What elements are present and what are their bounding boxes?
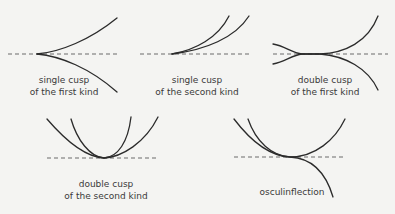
label-double-cusp-first-kind: double cusp of the first kind <box>291 74 360 98</box>
label-line-1: double cusp <box>64 178 147 190</box>
cusp-types-diagram: single cusp of the first kind single cus… <box>0 0 395 214</box>
label-line-2: of the first kind <box>291 86 360 98</box>
label-line-1: osculinflection <box>260 186 325 198</box>
label-line-2: of the second kind <box>64 190 147 202</box>
panel-double-cusp-second-kind <box>47 117 158 158</box>
cusp-figures <box>0 0 395 214</box>
label-line-1: double cusp <box>291 74 360 86</box>
label-double-cusp-second-kind: double cusp of the second kind <box>64 178 147 202</box>
label-single-cusp-second-kind: single cusp of the second kind <box>155 74 238 98</box>
upper-branch <box>273 16 378 54</box>
panel-single-cusp-second-kind <box>140 16 252 54</box>
label-line-1: single cusp <box>155 74 238 86</box>
upper-branch <box>37 18 117 54</box>
label-line-2: of the second kind <box>155 86 238 98</box>
outer-branch <box>172 16 249 54</box>
narrow-branch <box>71 117 131 158</box>
label-single-cusp-first-kind: single cusp of the first kind <box>30 74 99 98</box>
label-osculinflection: osculinflection <box>260 186 325 198</box>
label-line-2: of the first kind <box>30 86 99 98</box>
wide-branch <box>47 117 158 158</box>
label-line-1: single cusp <box>30 74 99 86</box>
